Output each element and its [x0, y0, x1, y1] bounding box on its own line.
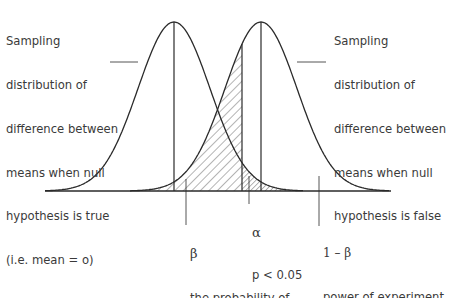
- hatched-regions: [130, 44, 303, 191]
- label-line: difference between: [6, 122, 118, 137]
- label-line: Sampling: [6, 34, 118, 49]
- label-line: difference between: [334, 122, 446, 137]
- power-symbol: 1 – β: [323, 246, 448, 261]
- alpha-symbol: α: [252, 226, 302, 241]
- label-line: (i.e. mean = o): [6, 253, 118, 268]
- alpha-label: α p < 0.05: [252, 197, 302, 297]
- alternative-distribution-label: Sampling distribution of difference betw…: [334, 5, 446, 239]
- label-line: distribution of: [334, 78, 446, 93]
- label-line: p < 0.05: [252, 268, 302, 283]
- null-distribution-label: Sampling distribution of difference betw…: [6, 5, 118, 282]
- label-line: means when null: [6, 166, 118, 181]
- label-line: distribution of: [6, 78, 118, 93]
- label-line: hypothesis is true: [6, 209, 118, 224]
- power-label: 1 – β power of experiment, i.e. probabil…: [323, 217, 448, 298]
- label-line: means when null: [334, 166, 446, 181]
- label-line: Sampling: [334, 34, 446, 49]
- beta-region: [130, 44, 242, 191]
- label-line: power of experiment,: [323, 290, 448, 298]
